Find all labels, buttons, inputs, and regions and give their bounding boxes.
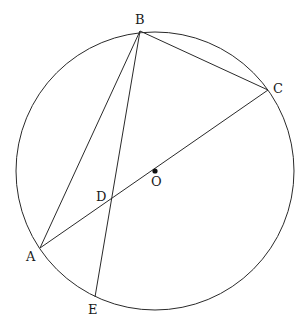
label-point-d: D	[96, 189, 106, 204]
label-point-c: C	[273, 81, 283, 96]
label-point-b: B	[135, 12, 145, 27]
geometry-figure: BCODAE	[0, 0, 306, 330]
segments	[40, 31, 268, 297]
label-point-e: E	[88, 302, 98, 317]
label-point-o: O	[151, 174, 162, 189]
point-labels: BCODAE	[25, 12, 283, 317]
segment-ab	[40, 31, 140, 248]
label-point-a: A	[25, 249, 36, 264]
center-point-o	[152, 168, 157, 173]
segment-bc	[140, 31, 268, 90]
segment-be	[95, 31, 140, 297]
